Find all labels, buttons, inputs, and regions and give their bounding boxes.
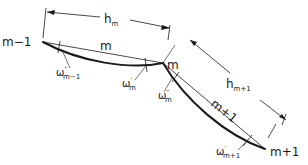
beam-geometry-diagram: hm hm+1 m−1 m m+1 m m+1 ω″m−1 ω′m ω″m ω′… xyxy=(0,0,308,165)
label-h-m-plus-1: hm+1 xyxy=(226,77,251,93)
member-label-m: m xyxy=(100,39,112,53)
deflected-members xyxy=(43,42,265,149)
node-label-m-minus-1: m−1 xyxy=(2,35,31,49)
omega-m-prime: ω′m xyxy=(122,77,136,92)
member-label-m-plus-1: m+1 xyxy=(208,96,240,125)
omega-m-plus-1-prime: ω′m+1 xyxy=(216,145,240,160)
omega-m-minus-1-double-prime: ω″m−1 xyxy=(56,66,80,81)
angle-ticks xyxy=(58,41,252,146)
label-h-m: hm xyxy=(104,12,119,28)
node-label-m-plus-1: m+1 xyxy=(270,145,299,159)
omega-m-double-prime: ω″m xyxy=(158,89,172,104)
node-label-m: m xyxy=(167,58,179,72)
